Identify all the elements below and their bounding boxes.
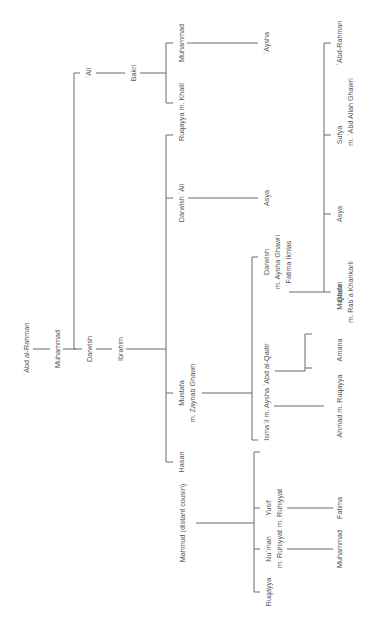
tree-labels: ʿAbd al-Rahman Muhammad ʿAli Bakri Muham… bbox=[22, 21, 355, 607]
node-fatima: Fatima bbox=[335, 497, 344, 519]
node-abd-rahman-leaf: ʿAbd-Rahman bbox=[335, 21, 344, 66]
node-numan-spouse: m. Ruhiyyat bbox=[275, 530, 284, 568]
node-hasan: Hasan bbox=[177, 452, 186, 473]
node-darwish-gen4: Darwish bbox=[262, 249, 271, 275]
node-darwish-gen4-spouse1: m. Aysha Ghawri bbox=[273, 235, 282, 290]
node-asya-2: Asya bbox=[335, 206, 344, 222]
node-yusif: Yusif bbox=[264, 500, 273, 516]
node-ruqayya-khalil: Ruqayya m. Khalil bbox=[177, 83, 186, 141]
node-numan: Nuʿman bbox=[264, 536, 273, 562]
node-aysha-bakri: ʿAysha bbox=[262, 32, 271, 54]
node-darwish-ali: Darwish ʿAli bbox=[177, 183, 186, 222]
node-mustafa-spouse: m. Zaynab Ghawri bbox=[188, 363, 197, 422]
node-darwish-gen4-spouse2: Fatima Ikhlas bbox=[284, 240, 293, 283]
node-qasim-spouse: m. Rabʿa Khankarli bbox=[346, 261, 355, 323]
node-ibrahim: Ibrahim bbox=[116, 337, 125, 361]
node-ahmad: Ahmad m. Ruqayya bbox=[335, 374, 344, 437]
node-muhammad-gen1: Muhammad bbox=[53, 330, 62, 368]
node-mustafa: Mustafa bbox=[177, 380, 186, 406]
node-sufya: Sufya bbox=[335, 126, 344, 144]
node-mustafa-2: Mustafa bbox=[335, 284, 344, 310]
node-ismail: Ismaʿil m. Aysha ʿAbd al-Qadir bbox=[262, 343, 271, 441]
node-muhammad-leaf: Muhammad bbox=[335, 530, 344, 568]
node-abd-al-rahman-root: ʿAbd al-Rahman bbox=[22, 323, 31, 375]
node-asya-1: Asya bbox=[262, 190, 271, 206]
node-sufya-spouse: m. ʿAbd Allah Ghawri bbox=[346, 78, 355, 146]
node-amana: Amana bbox=[335, 339, 344, 362]
node-yusif-spouse: m. Ruhiyyat bbox=[275, 489, 284, 527]
node-mahmud: Mahmud (distant cousin) bbox=[178, 484, 187, 563]
family-tree-diagram: ʿAbd al-Rahman Muhammad ʿAli Bakri Muham… bbox=[0, 0, 378, 631]
node-bakri: Bakri bbox=[129, 64, 138, 81]
node-darwish-gen2: Darwish bbox=[85, 336, 94, 362]
node-muhammad-bakri: Muhammad bbox=[177, 24, 186, 62]
node-ali: ʿAli bbox=[84, 67, 93, 78]
node-ruqayya-leaf: Ruqayya bbox=[264, 578, 273, 606]
